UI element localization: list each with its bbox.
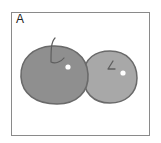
- left-apple-highlight: [65, 64, 70, 69]
- right-apple: [84, 51, 137, 103]
- right-apple-highlight: [120, 70, 125, 75]
- left-apple: [21, 38, 88, 104]
- apples-illustration: [0, 0, 161, 143]
